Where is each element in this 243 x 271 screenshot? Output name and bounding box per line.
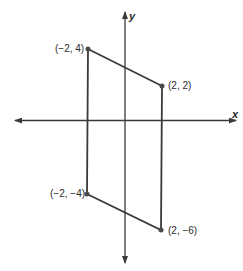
vertex-label: (2, −6): [168, 225, 197, 236]
vertex-label: (−2, 4): [55, 43, 84, 54]
vertex-point: [159, 228, 164, 233]
vertex-point: [85, 192, 90, 197]
vertex-label: (2, 2): [168, 80, 191, 91]
vertex-point: [86, 47, 91, 52]
vertex-point: [160, 84, 165, 89]
x-axis-label: x: [231, 108, 239, 120]
coordinate-plane: x y (−2, 4) (2, 2) (2, −6) (−2, −4): [0, 0, 243, 271]
vertex-label: (−2, −4): [50, 188, 85, 199]
y-axis-label: y: [128, 10, 136, 22]
